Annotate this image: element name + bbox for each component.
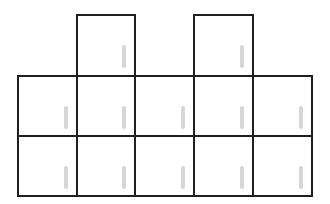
door-handle-icon <box>122 106 126 129</box>
door-handle-icon <box>240 106 244 129</box>
locker-door[interactable] <box>252 135 313 197</box>
locker-door[interactable] <box>193 135 254 197</box>
locker-door[interactable] <box>134 75 195 137</box>
door-handle-icon <box>181 166 185 189</box>
locker-door[interactable] <box>17 135 78 197</box>
locker-door[interactable] <box>193 14 254 77</box>
door-handle-icon <box>240 166 244 189</box>
door-handle-icon <box>240 45 244 68</box>
locker-door[interactable] <box>76 135 136 197</box>
locker-door[interactable] <box>134 135 195 197</box>
door-handle-icon <box>181 106 185 129</box>
door-handle-icon <box>299 106 303 129</box>
door-handle-icon <box>299 166 303 189</box>
locker-door[interactable] <box>76 14 136 77</box>
door-handle-icon <box>122 45 126 68</box>
door-handle-icon <box>122 166 126 189</box>
door-handle-icon <box>64 166 68 189</box>
locker-door[interactable] <box>17 75 78 137</box>
door-handle-icon <box>64 106 68 129</box>
locker-door[interactable] <box>252 75 313 137</box>
locker-door[interactable] <box>193 75 254 137</box>
locker-door[interactable] <box>76 75 136 137</box>
